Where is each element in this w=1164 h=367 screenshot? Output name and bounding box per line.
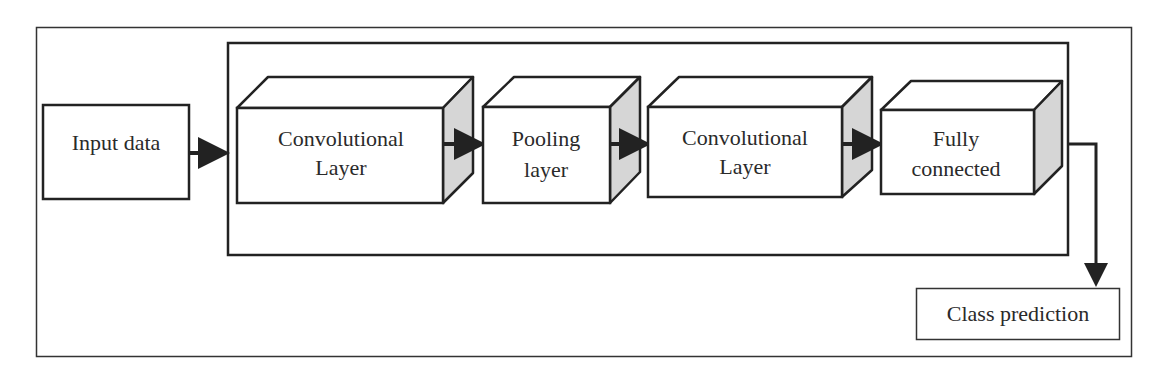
class-prediction-node: Class prediction <box>917 289 1120 340</box>
input-data-node: Input data <box>43 105 189 199</box>
pooling-layer-node: Pooling layer <box>483 77 640 203</box>
class-prediction-label: Class prediction <box>947 301 1089 326</box>
fc-label-line2: connected <box>911 156 1000 181</box>
conv1-top-face <box>237 77 473 108</box>
conv2-label-line1: Convolutional <box>682 125 808 150</box>
conv-layer-2-node: Convolutional Layer <box>648 77 872 197</box>
fc-top-face <box>881 81 1062 110</box>
conv2-top-face <box>648 77 872 107</box>
conv1-label-line2: Layer <box>315 155 367 180</box>
input-data-label: Input data <box>72 130 161 155</box>
pool-label-line2: layer <box>524 157 569 182</box>
conv2-label-line2: Layer <box>719 154 771 179</box>
arrow-fc-to-class-prediction <box>1068 144 1096 281</box>
conv-layer-1-node: Convolutional Layer <box>237 77 473 203</box>
pool-label-line1: Pooling <box>512 126 580 151</box>
cnn-diagram: Input data Convolutional Layer Pooling l… <box>0 0 1164 367</box>
fully-connected-node: Fully connected <box>881 81 1062 194</box>
conv1-label-line1: Convolutional <box>278 126 404 151</box>
fc-label-line1: Fully <box>933 126 979 151</box>
